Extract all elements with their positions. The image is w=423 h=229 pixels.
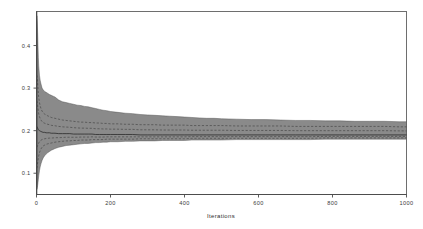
chart-screenshot: 0.10.20.30.4 02004006008001000 Iteration… bbox=[0, 0, 423, 229]
x-tick-label: 1000 bbox=[400, 200, 414, 206]
x-tick-label: 600 bbox=[253, 200, 263, 206]
x-tick-label: 0 bbox=[35, 200, 38, 206]
y-tick-label: 0.1 bbox=[22, 170, 31, 176]
x-tick-label: 800 bbox=[327, 200, 337, 206]
y-tick-label: 0.3 bbox=[22, 85, 31, 91]
y-tick-label: 0.2 bbox=[22, 128, 31, 134]
x-tick-label: 200 bbox=[105, 200, 115, 206]
plot-svg: 0.10.20.30.4 02004006008001000 Iteration… bbox=[0, 0, 423, 229]
x-axis-title: Iterations bbox=[207, 213, 235, 219]
x-tick-label: 400 bbox=[179, 200, 189, 206]
convergence-plot-figure: 0.10.20.30.4 02004006008001000 Iteration… bbox=[0, 0, 423, 229]
y-tick-label: 0.4 bbox=[22, 43, 31, 49]
